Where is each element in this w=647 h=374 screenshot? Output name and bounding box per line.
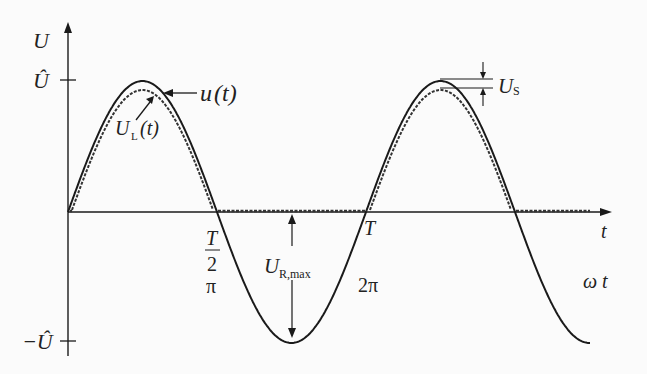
u-t-pointer	[163, 89, 197, 97]
arrow-down-icon	[480, 72, 486, 79]
u-hat-label: Û	[33, 68, 51, 93]
x-axis-arrow-icon	[600, 208, 612, 216]
period-label: T	[364, 217, 377, 239]
curve-ul-t	[72, 90, 511, 210]
arrow-up-icon	[288, 214, 296, 224]
half-period-denominator: 2	[207, 253, 217, 275]
urmax-label-sub: R,max	[279, 267, 311, 281]
x-axis-time-label: t	[601, 220, 607, 242]
ul-t-label-main: U	[115, 117, 131, 139]
half-period-angle: π	[206, 275, 216, 297]
x-axis-angle-label: ω t	[583, 270, 608, 292]
y-axis	[60, 22, 76, 356]
ul-t-label-sub: L	[131, 130, 138, 142]
rectifier-waveform-diagram: U Û −Û u (t) U L (t) U S U R,max T 2 π T…	[0, 0, 647, 374]
ul-t-label-arg: (t)	[140, 117, 159, 140]
arrow-up-icon	[480, 88, 486, 95]
neg-u-hat-label: −Û	[22, 329, 55, 354]
y-axis-arrow-icon	[64, 22, 72, 33]
diagram-canvas: U Û −Û u (t) U L (t) U S U R,max T 2 π T…	[0, 0, 647, 374]
u-t-label-main: u	[200, 80, 212, 106]
u-t-label-arg: (t)	[214, 80, 237, 106]
y-axis-label: U	[33, 28, 51, 53]
us-label-sub: S	[513, 84, 520, 98]
half-period-top: T	[206, 227, 219, 249]
arrow-down-icon	[288, 328, 296, 338]
period-angle-label: 2π	[358, 274, 378, 296]
